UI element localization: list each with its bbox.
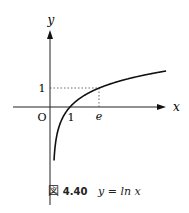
figure-caption: 図 4.40 y = ln x (0, 182, 189, 198)
figure-label: 図 (48, 185, 59, 198)
origin-label: O (37, 111, 46, 124)
x-tick-1: 1 (68, 111, 75, 124)
y-tick-1: 1 (39, 82, 46, 95)
figure-number: 4.40 (63, 186, 88, 197)
x-tick-e: e (96, 110, 103, 123)
x-axis-arrow-icon (157, 104, 166, 110)
caption-formula: y = ln x (98, 185, 141, 198)
y-axis-arrow-icon (47, 30, 53, 39)
y-axis-label: y (47, 13, 55, 27)
x-axis-label: x (173, 100, 180, 114)
